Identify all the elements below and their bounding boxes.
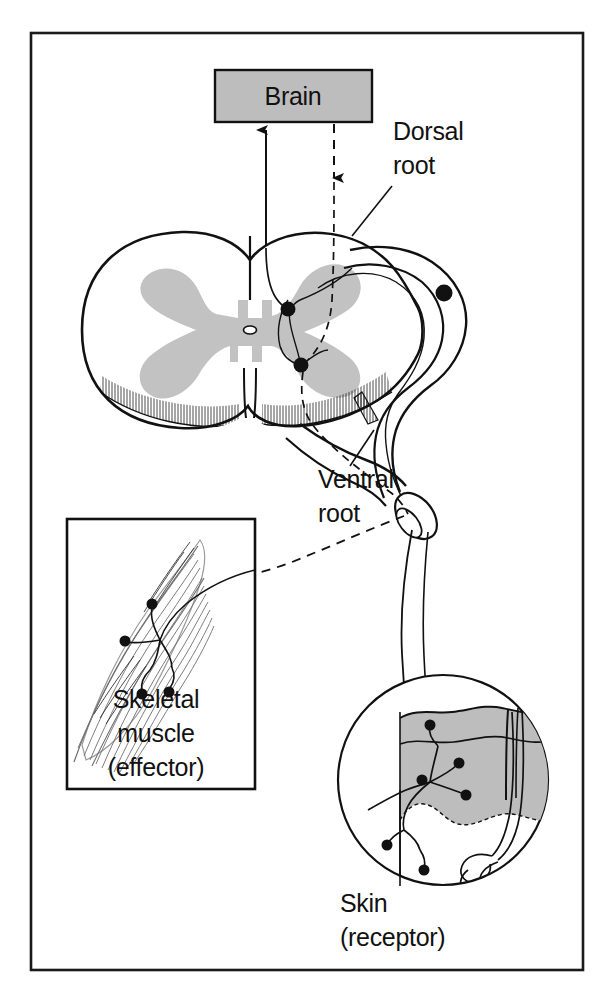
central-canal [244, 326, 257, 334]
muscle-label-line1: Skeletal [113, 685, 200, 713]
skeletal-muscle-inset: Skeletal muscle (effector) [67, 519, 255, 789]
ventral-root-label-line2: root [318, 499, 360, 527]
dorsal-root-ganglion-cell-body [436, 285, 453, 302]
brain-label: Brain [265, 82, 322, 110]
skin-label-line1: Skin [340, 889, 387, 917]
dorsal-root-label-line2: root [393, 151, 435, 179]
figure-canvas: Brain Dorsal root [0, 0, 614, 999]
spinal-cord-cross-section [82, 232, 423, 428]
muscle-label-line2: muscle [117, 719, 194, 747]
reflex-arc-diagram: Brain Dorsal root [0, 0, 614, 999]
skin-label-line2: (receptor) [340, 923, 445, 951]
dorsal-root-label-line1: Dorsal [393, 117, 463, 145]
muscle-label-line3: (effector) [108, 753, 205, 781]
motor-neuron-cell-body [294, 358, 309, 373]
